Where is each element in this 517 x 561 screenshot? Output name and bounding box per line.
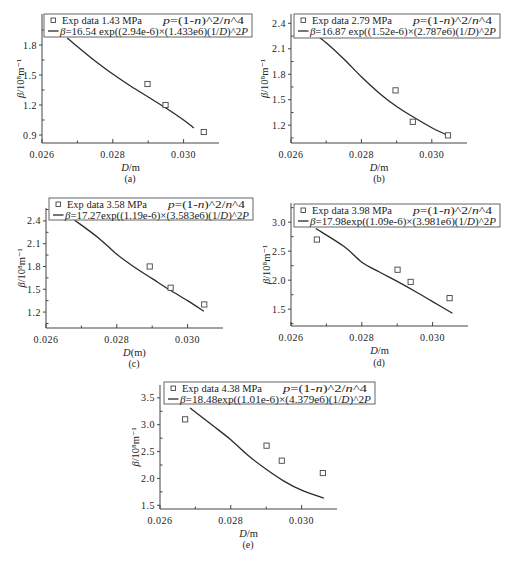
y-tick-label: 0.9 bbox=[23, 130, 37, 141]
legend: Exp data 4.38 MPap=(1-n)^2/n^4β=18.48exp… bbox=[164, 382, 375, 406]
legend-model-formula: p=(1-n)^2/n^4 bbox=[412, 16, 493, 27]
chart-panel-e: 0.0260.0280.0301.52.02.53.03.5D/mβ/10⁸m⁻… bbox=[130, 382, 375, 539]
x-tick-label: 0.026 bbox=[34, 334, 59, 345]
x-tick-label: 0.030 bbox=[175, 334, 200, 345]
data-point-marker bbox=[393, 88, 398, 93]
data-point-marker bbox=[314, 237, 319, 242]
x-tick-label: 0.028 bbox=[349, 149, 374, 160]
chart-panel-c: 0.0260.0280.0301.21.51.82.12.4D(m)β/10⁸m… bbox=[16, 198, 253, 359]
y-axis-label: β/10⁸m⁻¹ bbox=[16, 248, 27, 288]
legend-exp-label: Exp data 2.79 MPa bbox=[312, 16, 393, 26]
y-tick-label: 2.4 bbox=[27, 215, 41, 226]
y-tick-label: 1.5 bbox=[272, 304, 286, 315]
chart-panel-a: 0.0260.0280.0300.91.21.51.8D/mβ/10⁸m⁻¹Ex… bbox=[15, 14, 252, 173]
legend: Exp data 1.43 MPap=(1-n)^2/n^4β=16.54 ex… bbox=[44, 14, 252, 38]
legend: Exp data 3.98 MPap=(1-n)^2/n^4β=17.98exp… bbox=[294, 204, 500, 228]
x-tick-label: 0.030 bbox=[171, 149, 196, 160]
data-point-marker bbox=[147, 264, 152, 269]
y-tick-label: 3.0 bbox=[272, 217, 286, 228]
legend-square-marker-icon bbox=[171, 386, 176, 391]
legend-square-marker-icon bbox=[301, 18, 306, 23]
data-point-marker bbox=[201, 129, 206, 134]
y-axis-label: β/10⁸m⁻¹ bbox=[15, 59, 26, 99]
x-tick-label: 0.030 bbox=[289, 515, 314, 526]
legend-square-marker-icon bbox=[56, 202, 61, 207]
x-tick-label: 0.028 bbox=[218, 515, 243, 526]
y-tick-label: 3.0 bbox=[141, 419, 155, 430]
y-tick-label: 1.2 bbox=[272, 120, 286, 131]
y-tick-label: 2.1 bbox=[272, 43, 286, 54]
x-tick-label: 0.030 bbox=[420, 332, 445, 343]
y-tick-label: 2.5 bbox=[272, 246, 286, 257]
fit-curve bbox=[75, 220, 204, 311]
legend-exp-label: Exp data 1.43 MPa bbox=[62, 16, 143, 26]
y-tick-label: 1.8 bbox=[272, 69, 286, 80]
data-point-marker bbox=[410, 119, 415, 124]
y-tick-label: 1.5 bbox=[141, 500, 155, 511]
legend-fit-label: β=18.48exp((1.01e-6)×(4.379e6)(1/D)^2P bbox=[179, 395, 371, 406]
data-point-marker bbox=[408, 279, 413, 284]
data-point-marker bbox=[145, 81, 150, 86]
data-point-marker bbox=[279, 458, 284, 463]
legend-model-formula: p=(1-n)^2/n^4 bbox=[162, 16, 245, 27]
legend-exp-label: Exp data 4.38 MPa bbox=[182, 384, 263, 394]
y-tick-label: 1.8 bbox=[27, 261, 41, 272]
y-tick-label: 2.1 bbox=[27, 238, 41, 249]
x-tick-label: 0.026 bbox=[279, 149, 304, 160]
figure: 0.0260.0280.0300.91.21.51.8D/mβ/10⁸m⁻¹Ex… bbox=[0, 0, 517, 561]
x-axis-label: D/m bbox=[369, 345, 389, 356]
legend-model-formula: p=(1-n)^2/n^4 bbox=[167, 200, 246, 211]
caption-a: (a) bbox=[100, 173, 160, 184]
data-point-marker bbox=[320, 470, 325, 475]
legend-fit-label: β=17.27exp((1.19e-6)×(3.583e6)(1/D)^2P bbox=[64, 211, 249, 222]
data-point-marker bbox=[395, 267, 400, 272]
legend-fit-label: β=17.98exp((1.09e-6)×(3.981e6)(1/D)^2P bbox=[309, 217, 496, 228]
caption-d: (d) bbox=[349, 357, 409, 368]
caption-c: (c) bbox=[104, 358, 164, 369]
caption-e: (e) bbox=[218, 539, 278, 550]
x-axis-label: D/m bbox=[369, 162, 389, 173]
y-tick-label: 2.5 bbox=[141, 446, 155, 457]
data-point-marker bbox=[264, 443, 269, 448]
legend-model-formula: p=(1-n)^2/n^4 bbox=[412, 206, 493, 217]
y-tick-label: 1.2 bbox=[23, 100, 37, 111]
legend-fit-label: β=16.87 exp((1.52e-6)×(2.787e6)(1/D)^2P bbox=[309, 27, 496, 38]
chart-panel-d: 0.0260.0280.0301.52.02.53.0D/mβ/10⁸m⁻¹Ex… bbox=[261, 203, 500, 356]
chart-panel-b: 0.0260.0280.0301.21.51.82.12.4D/mβ/10⁸m⁻… bbox=[259, 14, 500, 173]
y-tick-label: 2.4 bbox=[272, 18, 286, 29]
y-tick-label: 1.2 bbox=[27, 307, 41, 318]
fit-curve bbox=[313, 33, 447, 136]
data-point-marker bbox=[445, 133, 450, 138]
x-tick-label: 0.028 bbox=[349, 332, 374, 343]
legend-fit-label: β=16.54 exp((2.94e-6)×(1.433e6)(1/D)^2P bbox=[59, 27, 248, 38]
y-axis-label: β/10⁸m⁻¹ bbox=[130, 427, 141, 467]
x-axis-label: D/m bbox=[238, 528, 258, 539]
legend-exp-label: Exp data 3.58 MPa bbox=[67, 200, 148, 210]
y-tick-label: 3.5 bbox=[141, 392, 155, 403]
legend-square-marker-icon bbox=[51, 18, 56, 23]
x-tick-label: 0.026 bbox=[30, 149, 55, 160]
data-point-marker bbox=[163, 102, 168, 107]
x-tick-label: 0.026 bbox=[279, 332, 304, 343]
legend: Exp data 2.79 MPap=(1-n)^2/n^4β=16.87 ex… bbox=[294, 14, 500, 38]
figure-canvas: 0.0260.0280.0300.91.21.51.8D/mβ/10⁸m⁻¹Ex… bbox=[0, 0, 517, 561]
y-tick-label: 1.8 bbox=[23, 40, 37, 51]
x-tick-label: 0.028 bbox=[100, 149, 125, 160]
y-tick-label: 2.0 bbox=[272, 275, 286, 286]
caption-b: (b) bbox=[349, 173, 409, 184]
data-point-marker bbox=[447, 296, 452, 301]
legend-exp-label: Exp data 3.98 MPa bbox=[312, 206, 393, 216]
x-tick-label: 0.030 bbox=[419, 149, 444, 160]
y-axis-label: β/10⁸m⁻¹ bbox=[261, 245, 272, 285]
data-point-marker bbox=[168, 285, 173, 290]
x-tick-label: 0.026 bbox=[148, 515, 173, 526]
y-tick-label: 2.0 bbox=[141, 473, 155, 484]
fit-curve bbox=[316, 229, 453, 314]
x-tick-label: 0.028 bbox=[104, 334, 129, 345]
data-point-marker bbox=[202, 302, 207, 307]
data-point-marker bbox=[183, 417, 188, 422]
fit-curve bbox=[67, 38, 194, 128]
legend-square-marker-icon bbox=[301, 208, 306, 213]
legend: Exp data 3.58 MPap=(1-n)^2/n^4β=17.27exp… bbox=[49, 198, 253, 222]
x-axis-label: D/m bbox=[120, 162, 140, 173]
